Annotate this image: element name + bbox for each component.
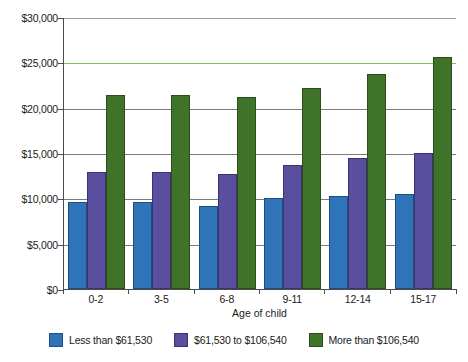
bar[interactable] bbox=[152, 172, 171, 289]
bar[interactable] bbox=[395, 194, 414, 289]
y-axis-tick-label: $10,000 bbox=[0, 194, 58, 204]
bar-group bbox=[195, 18, 260, 289]
bar-group bbox=[391, 18, 456, 289]
y-axis-tick-label: $25,000 bbox=[0, 58, 58, 68]
bar[interactable] bbox=[283, 165, 302, 289]
bar[interactable] bbox=[237, 97, 256, 289]
bar[interactable] bbox=[171, 95, 190, 289]
y-axis-tick-label: $30,000 bbox=[0, 13, 58, 23]
bar[interactable] bbox=[302, 88, 321, 289]
x-axis-tick-label: 12-14 bbox=[325, 292, 391, 306]
bar[interactable] bbox=[68, 202, 87, 289]
x-axis-tick-label: 15-17 bbox=[391, 292, 457, 306]
bar-group bbox=[260, 18, 325, 289]
bar[interactable] bbox=[348, 158, 367, 289]
bar[interactable] bbox=[106, 95, 125, 289]
legend-color-swatch bbox=[174, 333, 188, 347]
x-axis-title: Age of child bbox=[63, 307, 456, 319]
bar-group bbox=[325, 18, 390, 289]
bar[interactable] bbox=[133, 202, 152, 289]
y-axis-tick-label: $15,000 bbox=[0, 149, 58, 159]
x-axis-tick-mark bbox=[456, 289, 457, 294]
plot-area bbox=[63, 18, 456, 290]
legend-item[interactable]: $61,530 to $106,540 bbox=[174, 333, 287, 347]
legend-color-swatch bbox=[309, 333, 323, 347]
bar-group bbox=[129, 18, 194, 289]
legend-label: More than $106,540 bbox=[329, 334, 419, 346]
legend-color-swatch bbox=[49, 333, 63, 347]
legend-label: $61,530 to $106,540 bbox=[194, 334, 287, 346]
bar[interactable] bbox=[414, 153, 433, 289]
bar-chart: $0$5,000$10,000$15,000$20,000$25,000$30,… bbox=[0, 0, 468, 362]
x-axis-tick-label: 6-8 bbox=[194, 292, 260, 306]
x-axis-labels: 0-23-56-89-1112-1415-17 bbox=[63, 292, 456, 306]
y-axis: $0$5,000$10,000$15,000$20,000$25,000$30,… bbox=[0, 0, 58, 362]
bar-group bbox=[64, 18, 129, 289]
x-axis-tick-label: 3-5 bbox=[129, 292, 195, 306]
bar[interactable] bbox=[264, 198, 283, 289]
bar[interactable] bbox=[329, 196, 348, 289]
legend-item[interactable]: More than $106,540 bbox=[309, 333, 419, 347]
bar-groups bbox=[64, 18, 456, 289]
legend-label: Less than $61,530 bbox=[69, 334, 152, 346]
legend-item[interactable]: Less than $61,530 bbox=[49, 333, 152, 347]
y-axis-tick-label: $5,000 bbox=[0, 240, 58, 250]
x-axis-tick-label: 9-11 bbox=[260, 292, 326, 306]
bar[interactable] bbox=[367, 74, 386, 289]
bar[interactable] bbox=[433, 57, 452, 289]
bar[interactable] bbox=[218, 174, 237, 289]
bar[interactable] bbox=[199, 206, 218, 289]
y-axis-tick-label: $20,000 bbox=[0, 104, 58, 114]
y-axis-tick-label: $0 bbox=[0, 285, 58, 295]
chart-legend: Less than $61,530$61,530 to $106,540More… bbox=[0, 333, 468, 347]
x-axis-tick-label: 0-2 bbox=[63, 292, 129, 306]
bar[interactable] bbox=[87, 172, 106, 289]
